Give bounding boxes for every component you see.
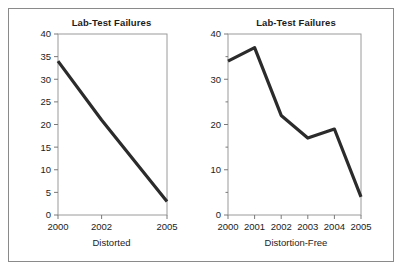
y-tick-label: 20 [40, 119, 51, 130]
chart-panel-distorted: Lab-Test Failures 0510152025303540200020… [19, 9, 204, 261]
line-chart-distorted: 0510152025303540200020022005 [19, 29, 204, 234]
chart-title-distortion-free: Lab-Test Failures [199, 17, 393, 28]
y-tick-label: 30 [40, 74, 51, 85]
chart-panel-distortion-free: Lab-Test Failures 0102030402000200120022… [199, 9, 393, 261]
y-tick-label: 5 [46, 187, 51, 198]
x-tick-label: 2005 [156, 221, 177, 232]
y-tick-label: 35 [40, 51, 51, 62]
x-tick-label: 2002 [91, 221, 112, 232]
figure-canvas: Lab-Test Failures 0510152025303540200020… [0, 0, 404, 280]
chart-title-distorted: Lab-Test Failures [19, 17, 204, 28]
plot-area-box [228, 34, 361, 215]
x-tick-label: 2000 [47, 221, 68, 232]
y-tick-label: 15 [40, 142, 51, 153]
x-tick-label: 2002 [271, 221, 292, 232]
x-tick-label: 2001 [244, 221, 265, 232]
plot-area-box [58, 34, 167, 215]
axis-caption-distortion-free: Distortion-Free [199, 237, 393, 248]
y-tick-label: 10 [210, 164, 221, 175]
y-tick-label: 40 [40, 29, 51, 39]
y-tick-label: 0 [216, 209, 221, 220]
x-tick-label: 2000 [217, 221, 238, 232]
y-tick-label: 40 [210, 29, 221, 39]
y-tick-label: 10 [40, 164, 51, 175]
line-chart-distortion-free: 010203040200020012002200320042005 [199, 29, 393, 234]
figure-outer-border: Lab-Test Failures 0510152025303540200020… [8, 8, 394, 262]
x-tick-label: 2003 [297, 221, 318, 232]
y-tick-label: 20 [210, 119, 221, 130]
x-tick-label: 2005 [350, 221, 371, 232]
y-tick-label: 0 [46, 209, 51, 220]
x-tick-label: 2004 [324, 221, 345, 232]
y-tick-label: 25 [40, 96, 51, 107]
y-tick-label: 30 [210, 74, 221, 85]
axis-caption-distorted: Distorted [19, 237, 204, 248]
